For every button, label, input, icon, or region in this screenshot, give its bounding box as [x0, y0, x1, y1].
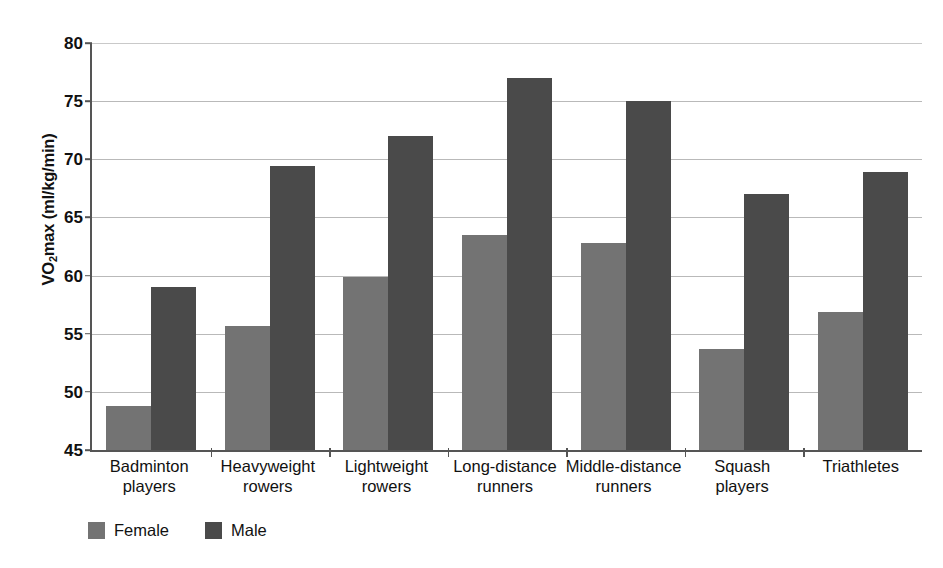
x-axis-label-line: Badminton	[90, 456, 209, 476]
x-axis-label: Squashplayers	[683, 456, 802, 496]
x-axis-label-line: Triathletes	[801, 456, 920, 476]
legend-label-female: Female	[114, 521, 169, 540]
x-axis-label-line: rowers	[327, 476, 446, 496]
y-tick-mark-70	[85, 158, 92, 160]
legend-swatch-female-icon	[88, 522, 105, 539]
bar[interactable]	[106, 406, 151, 450]
x-axis-label-line: Middle-distance	[564, 456, 683, 476]
x-axis-label: Heavyweightrowers	[209, 456, 328, 496]
bar[interactable]	[462, 235, 507, 450]
bar-group	[448, 43, 567, 450]
plot-area: 4550556065707580	[90, 43, 922, 452]
legend-item-male[interactable]: Male	[205, 521, 267, 540]
y-axis-title-subscript: 2	[47, 256, 59, 262]
bar[interactable]	[343, 277, 388, 450]
y-tick-label-80: 80	[39, 35, 83, 52]
x-axis-label-line: Heavyweight	[209, 456, 328, 476]
x-axis-label-line: Squash	[683, 456, 802, 476]
x-axis-label: Long-distancerunners	[446, 456, 565, 496]
y-tick-label-50: 50	[39, 383, 83, 400]
y-tick-label-55: 55	[39, 325, 83, 342]
bars-layer	[92, 43, 922, 450]
bar[interactable]	[151, 287, 196, 450]
y-tick-label-65: 65	[39, 209, 83, 226]
x-axis-label-line: Lightweight	[327, 456, 446, 476]
bar[interactable]	[270, 166, 315, 450]
y-tick-mark-45	[85, 449, 92, 451]
bar-group	[92, 43, 211, 450]
bar-group	[803, 43, 922, 450]
y-tick-mark-65	[85, 217, 92, 219]
legend: Female Male	[88, 521, 267, 540]
x-axis-label-line: runners	[446, 476, 565, 496]
bar[interactable]	[581, 243, 626, 450]
x-axis-label-line: players	[683, 476, 802, 496]
legend-label-male: Male	[231, 521, 267, 540]
y-tick-mark-75	[85, 100, 92, 102]
bar-group	[685, 43, 804, 450]
x-axis-label: Triathletes	[801, 456, 920, 476]
bar[interactable]	[699, 349, 744, 450]
y-tick-label-60: 60	[39, 267, 83, 284]
bar-group	[211, 43, 330, 450]
legend-item-female[interactable]: Female	[88, 521, 169, 540]
x-axis-label: Middle-distancerunners	[564, 456, 683, 496]
y-tick-label-75: 75	[39, 93, 83, 110]
x-axis-label: Lightweightrowers	[327, 456, 446, 496]
y-tick-mark-60	[85, 275, 92, 277]
legend-swatch-male-icon	[205, 522, 222, 539]
y-tick-label-70: 70	[39, 151, 83, 168]
x-axis-label-line: Long-distance	[446, 456, 565, 476]
y-tick-mark-55	[85, 333, 92, 335]
vo2max-bar-chart: VO2max (ml/kg/min) 4550556065707580 Badm…	[0, 0, 943, 568]
bar-group	[566, 43, 685, 450]
bar[interactable]	[507, 78, 552, 450]
bar[interactable]	[818, 312, 863, 450]
bar[interactable]	[388, 136, 433, 450]
bar-group	[329, 43, 448, 450]
y-tick-mark-50	[85, 391, 92, 393]
x-axis-labels: BadmintonplayersHeavyweightrowersLightwe…	[90, 456, 920, 510]
x-axis-label-line: rowers	[209, 476, 328, 496]
bar[interactable]	[863, 172, 908, 450]
bar[interactable]	[744, 194, 789, 450]
x-axis-label: Badmintonplayers	[90, 456, 209, 496]
y-tick-label-45: 45	[39, 442, 83, 459]
x-axis-label-line: runners	[564, 476, 683, 496]
x-axis-label-line: players	[90, 476, 209, 496]
y-tick-mark-80	[85, 42, 92, 44]
bar[interactable]	[626, 101, 671, 450]
bar[interactable]	[225, 326, 270, 450]
